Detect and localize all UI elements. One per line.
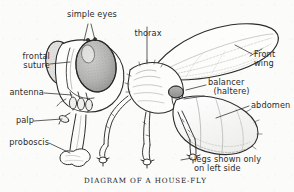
label-simple-eyes: simple eyes (62, 10, 122, 19)
ink-drawing (34, 24, 278, 168)
label-proboscis: proboscis (1, 138, 49, 147)
label-antenna: antenna (2, 88, 44, 97)
label-legs-note: legs shown only on left side (194, 155, 280, 172)
label-balancer-haltere: balancer (haltere) (208, 78, 274, 95)
label-frontal-suture: frontal suture (4, 52, 50, 69)
abdomen-shape (173, 96, 262, 155)
label-palp: palp (4, 116, 34, 125)
label-abdomen: abdomen (251, 101, 294, 110)
house-fly-diagram: simple eyes thorax Front wing balancer (… (0, 0, 294, 192)
figure-caption: DIAGRAM OF A HOUSE-FLY (84, 176, 207, 185)
label-front-wing: Front wing (254, 50, 294, 67)
proboscis-shape (58, 113, 90, 166)
label-thorax: thorax (127, 29, 169, 38)
